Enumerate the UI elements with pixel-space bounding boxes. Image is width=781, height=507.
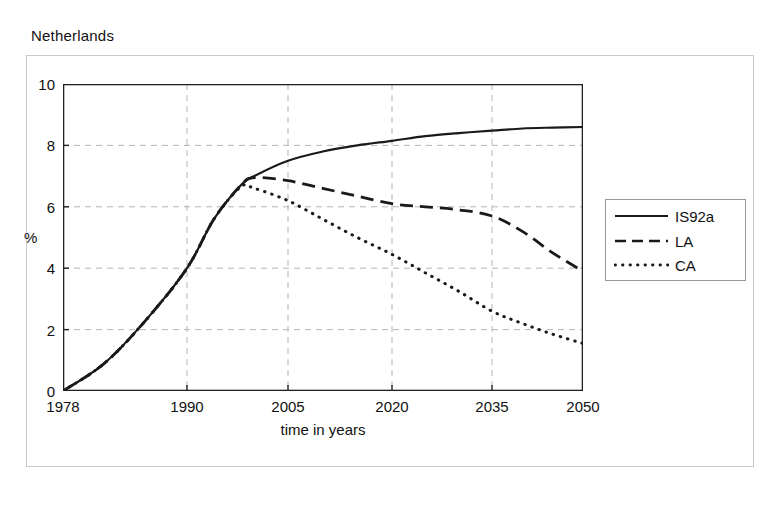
legend-item-ca: CA (614, 254, 740, 276)
legend-item-la: LA (614, 230, 740, 252)
y-axis-labels: 0 2 4 6 8 10 (0, 0, 55, 507)
figure-root: Netherlands 0 2 4 6 8 10 % 1978 1990 200… (0, 0, 781, 507)
chart-canvas (63, 84, 583, 391)
plot-area (63, 84, 583, 391)
x-tick-2035: 2035 (475, 398, 508, 415)
y-tick-2: 2 (47, 322, 55, 339)
y-tick-8: 8 (47, 137, 55, 154)
legend-item-is92a: IS92a (614, 205, 740, 227)
cropped-caption-fragment (38, 498, 158, 507)
chart-legend: IS92a LA CA (605, 199, 746, 281)
legend-swatch-solid-icon (614, 211, 669, 221)
legend-swatch-dashed-icon (614, 236, 669, 246)
x-tick-2005: 2005 (271, 398, 304, 415)
y-tick-4: 4 (47, 260, 55, 277)
series-line-la (63, 177, 583, 391)
x-tick-1990: 1990 (170, 398, 203, 415)
y-tick-10: 10 (38, 76, 55, 93)
x-tick-2020: 2020 (375, 398, 408, 415)
series-line-ca (63, 184, 583, 391)
series-line-is92a (63, 127, 583, 391)
legend-label-is92a: IS92a (675, 209, 714, 224)
y-tick-0: 0 (47, 383, 55, 400)
x-tick-2050: 2050 (566, 398, 599, 415)
legend-label-la: LA (675, 234, 693, 249)
x-tick-1978: 1978 (46, 398, 79, 415)
y-axis-unit-label: % (24, 229, 37, 246)
y-tick-6: 6 (47, 199, 55, 216)
legend-label-ca: CA (675, 258, 696, 273)
legend-swatch-dotted-icon (614, 260, 669, 270)
x-axis-title: time in years (280, 421, 365, 438)
